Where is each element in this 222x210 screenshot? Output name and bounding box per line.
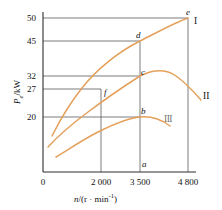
horizontal-gridlines bbox=[43, 18, 188, 117]
point-label-b: b bbox=[141, 107, 146, 116]
ytick-label-20: 20 bbox=[12, 113, 36, 122]
curve-label-III: III bbox=[164, 115, 172, 125]
point-label-a: a bbox=[142, 160, 147, 169]
curve-series-II bbox=[48, 71, 201, 147]
curve-I-path bbox=[52, 75, 101, 135]
axes bbox=[43, 12, 196, 172]
curve-I bbox=[52, 79, 101, 135]
curve-label-II: II bbox=[203, 92, 209, 102]
xtick-label-4800: 4 800 bbox=[168, 178, 208, 187]
x-axis-title: n/(r · min-1) bbox=[74, 191, 117, 204]
curve-label-I: I bbox=[194, 17, 197, 27]
point-label-e: e bbox=[186, 8, 190, 17]
y-axis-unit: /kW bbox=[12, 80, 22, 96]
point-label-c: c bbox=[141, 68, 145, 77]
x-axis-rest: /(r · min bbox=[79, 194, 109, 204]
point-label-f: f bbox=[104, 88, 107, 97]
y-axis-title: Pe/kW bbox=[12, 80, 26, 104]
y-axis-var: P bbox=[12, 99, 22, 105]
ytick-label-50: 50 bbox=[12, 14, 36, 23]
x-axis-close: ) bbox=[114, 194, 117, 204]
xtick-label-0: 0 bbox=[23, 178, 63, 187]
xtick-label-3500: 3 500 bbox=[120, 178, 160, 187]
point-label-d: d bbox=[136, 31, 141, 40]
chart-figure: 50 45 32 27 20 0 2 000 3 500 4 800 Pe/kW… bbox=[0, 0, 222, 210]
ytick-label-45: 45 bbox=[12, 37, 36, 46]
y-axis-sub: e bbox=[17, 96, 24, 99]
xtick-label-2000: 2 000 bbox=[81, 178, 121, 187]
